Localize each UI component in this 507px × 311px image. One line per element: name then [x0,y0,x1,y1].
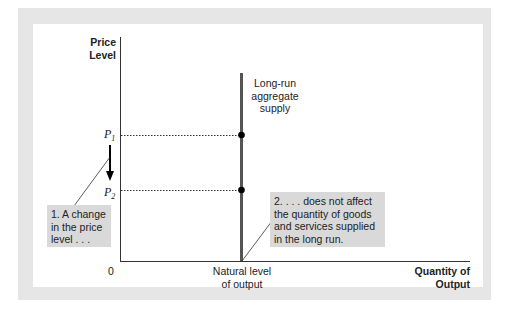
lras-label: Long-run aggregate supply [245,77,305,115]
natural-level-line1: Natural level [206,265,278,278]
note2-line3: and services supplied [274,220,381,233]
natural-level-line2: of output [206,278,278,291]
y-axis-label: Price Level [88,36,116,61]
x-axis-label: Quantity of Output [400,265,470,290]
p2-subscript: 2 [111,192,115,201]
lras-label-line1: Long-run [245,77,305,90]
note1-line1: 1. A change [51,208,107,221]
note2-leader [242,221,272,261]
note2-line4: in the long run. [274,233,381,246]
point-p2 [238,187,245,194]
p1-subscript: 1 [111,134,115,143]
note-price-change: 1. A change in the price level . . . [47,205,111,247]
lras-label-line3: supply [245,102,305,115]
x-axis-label-line1: Quantity of [400,265,470,278]
arrowhead-icon [106,171,114,181]
natural-level-label: Natural level of output [206,265,278,290]
note-no-effect: 2. . . . does not affect the quantity of… [270,192,385,247]
y-axis-label-line2: Level [88,49,116,62]
x-axis-label-line2: Output [400,278,470,291]
note2-line1: 2. . . . does not affect [274,195,381,208]
p2-label: P2 [104,186,115,204]
lras-label-line2: aggregate [245,90,305,103]
origin-label: 0 [108,265,114,278]
p1-label: P1 [104,128,115,146]
y-axis-label-line1: Price [88,36,116,49]
note1-line3: level . . . [51,233,107,246]
note2-line2: the quantity of goods [274,208,381,221]
point-p1 [238,132,245,139]
note1-line2: in the price [51,221,107,234]
